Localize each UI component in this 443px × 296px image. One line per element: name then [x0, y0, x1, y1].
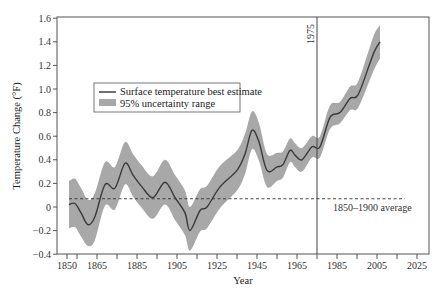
- y-tick-label: 0: [46, 202, 51, 213]
- legend-label-best-estimate: Surface temperature best estimate: [120, 86, 262, 97]
- x-tick-label: 1925: [207, 260, 227, 271]
- legend-label-uncertainty: 95% uncertainty range: [120, 98, 215, 109]
- y-tick-label: 0.6: [39, 131, 52, 142]
- y-axis-ticks: −0.4−0.200.20.40.60.81.01.21.41.6: [33, 13, 57, 260]
- x-tick-label: 1985: [327, 260, 347, 271]
- baseline-average-label: 1850–1900 average: [333, 202, 412, 213]
- y-tick-label: 1.2: [39, 60, 52, 71]
- x-tick-label: 1865: [87, 260, 107, 271]
- temperature-chart: 1850–1900 average 1975 −0.4−0.200.20.40.…: [0, 0, 443, 296]
- x-tick-label: 1885: [127, 260, 147, 271]
- y-tick-label: −0.4: [33, 249, 51, 260]
- x-tick-label: 1965: [287, 260, 307, 271]
- y-tick-label: 0.4: [39, 154, 52, 165]
- y-axis-title: Temperature Change (°F): [11, 82, 23, 190]
- x-tick-label: 1905: [167, 260, 187, 271]
- y-tick-label: −0.2: [33, 225, 51, 236]
- legend: Surface temperature best estimate 95% un…: [94, 83, 262, 112]
- legend-band-swatch-icon: [99, 99, 116, 106]
- x-axis-ticks: 1850186518851905192519451965198520052025: [57, 254, 427, 271]
- y-tick-label: 0.2: [39, 178, 52, 189]
- uncertainty-band-area: [69, 25, 380, 250]
- x-tick-label: 1945: [247, 260, 267, 271]
- uncertainty-band: [69, 25, 380, 250]
- year-1975-marker-label: 1975: [305, 24, 316, 44]
- x-tick-label: 1850: [57, 260, 77, 271]
- x-tick-label: 2025: [407, 260, 427, 271]
- y-tick-label: 1.4: [39, 36, 52, 47]
- y-tick-label: 1.6: [39, 13, 52, 24]
- x-axis-title: Year: [233, 275, 253, 286]
- x-tick-label: 2005: [367, 260, 387, 271]
- y-tick-label: 0.8: [39, 107, 52, 118]
- y-tick-label: 1.0: [39, 84, 52, 95]
